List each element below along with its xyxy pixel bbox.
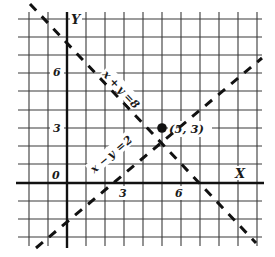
coordinate-graph: Y X 0 6 3 3 6 (5, 3) x + y = 8 x − y = 2	[0, 0, 275, 257]
origin-label: 0	[52, 169, 60, 182]
intersection-point	[157, 123, 167, 133]
x-axis-label: X	[234, 166, 246, 181]
x-tick-3: 3	[119, 187, 127, 200]
intersection-label: (5, 3)	[169, 122, 204, 136]
y-tick-6: 6	[53, 66, 61, 79]
label-x-plus-y-eq-8: x + y = 8	[99, 67, 142, 112]
y-tick-3: 3	[53, 122, 61, 135]
x-tick-6: 6	[175, 187, 183, 200]
